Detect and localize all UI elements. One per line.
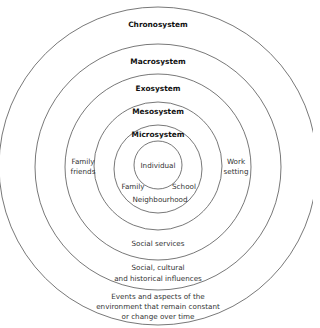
work-setting-label-1: Work bbox=[227, 157, 245, 166]
school-label: School bbox=[172, 182, 196, 191]
individual-label: Individual bbox=[140, 161, 175, 170]
microsystem-label: Microsystem bbox=[132, 130, 185, 139]
social-cultural-label-2: and historical influences bbox=[114, 274, 202, 283]
work-setting-label-2: setting bbox=[224, 167, 249, 176]
macrosystem-label: Macrosystem bbox=[130, 57, 185, 66]
events-label-2: environment that remain constant bbox=[96, 302, 220, 311]
social-services-label: Social services bbox=[131, 239, 184, 248]
neighbourhood-label: Neighbourhood bbox=[132, 195, 187, 204]
chronosystem-label: Chronosystem bbox=[128, 20, 188, 29]
social-cultural-label-1: Social, cultural bbox=[131, 263, 184, 272]
mesosystem-label: Mesosystem bbox=[132, 107, 184, 116]
events-label-3: or change over time bbox=[122, 312, 195, 321]
exosystem-label: Exosystem bbox=[136, 84, 181, 93]
family-friends-label-2: friends bbox=[71, 167, 96, 176]
events-label-1: Events and aspects of the bbox=[111, 292, 204, 301]
family-label: Family bbox=[121, 182, 144, 191]
family-friends-label-1: Family bbox=[71, 157, 94, 166]
